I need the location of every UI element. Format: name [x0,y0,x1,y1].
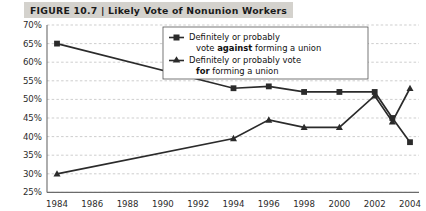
y-tick-label: 25% [23,187,42,197]
legend-label-against-line1: Definitely or probably [189,32,280,42]
x-tick-label: 1984 [46,199,68,209]
data-point-marker [54,41,60,47]
y-tick-label: 55% [23,76,42,86]
chart-plot-area: 70% 65% 60% 55% 50% 45% 40% 35% 30% 25% … [0,18,426,211]
x-tick-label: 2000 [328,199,350,209]
y-tick-label: 30% [23,169,42,179]
x-axis-ticks: 1984 1986 1988 1990 1992 1994 1996 1998 … [46,199,421,209]
x-tick-label: 2002 [364,199,386,209]
x-tick-label: 2004 [399,199,421,209]
figure-container: FIGURE 10.7 | Likely Vote of Nonunion Wo… [0,0,426,211]
y-tick-label: 50% [23,94,42,104]
x-tick-label: 1996 [258,199,280,209]
x-tick-label: 1990 [152,199,174,209]
y-tick-label: 65% [23,39,42,49]
data-point-marker [231,85,237,91]
data-point-marker [407,139,413,145]
x-tick-label: 1986 [81,199,103,209]
series-markers-for [54,85,414,177]
y-tick-label: 45% [23,113,42,123]
data-point-marker [337,89,343,95]
data-point-marker [301,89,307,95]
x-tick-label: 1994 [223,199,245,209]
y-tick-label: 60% [23,57,42,67]
legend-label-for-line2: for forming a union [196,66,279,76]
figure-title-bar: FIGURE 10.7 | Likely Vote of Nonunion Wo… [24,2,293,18]
line-chart: 70% 65% 60% 55% 50% 45% 40% 35% 30% 25% … [0,18,426,211]
x-tick-label: 1992 [187,199,209,209]
x-tick-label: 1988 [117,199,139,209]
legend-label-against-line2: vote against forming a union [196,43,321,53]
legend-label-for-line1: Definitely or probably vote [189,55,301,65]
series-line-for [57,88,410,174]
data-point-marker [266,83,272,89]
data-point-marker [265,116,272,122]
data-point-marker [407,85,414,91]
y-tick-label: 40% [23,132,42,142]
y-tick-label: 70% [23,20,42,30]
chart-legend: Definitely or probably vote against form… [163,27,368,79]
figure-title: FIGURE 10.7 | Likely Vote of Nonunion Wo… [30,5,287,16]
y-axis-ticks: 70% 65% 60% 55% 50% 45% 40% 35% 30% 25% [23,20,42,197]
y-tick-label: 35% [23,150,42,160]
x-tick-label: 1998 [293,199,315,209]
